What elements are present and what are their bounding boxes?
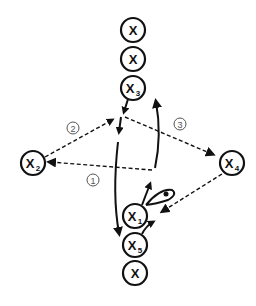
step-label-3-text: 3	[177, 120, 182, 130]
player-x-second-label: X	[129, 52, 138, 67]
cut-line-short	[119, 117, 121, 132]
player-x-second: X	[121, 47, 145, 71]
x1-up-curve-line	[155, 102, 159, 168]
ball-handler-loop	[146, 190, 174, 205]
player-x-bottom: X	[123, 261, 147, 285]
pass-3-line	[125, 117, 212, 154]
player-x5: X 5	[123, 233, 147, 257]
step-label-2: 2	[67, 122, 79, 134]
player-x2: X 2	[21, 151, 45, 175]
player-x3-label: X	[126, 81, 135, 96]
player-x2-sub: 2	[36, 164, 41, 173]
player-x-top: X	[121, 18, 145, 42]
player-x1-sub: 1	[138, 217, 143, 226]
player-x-top-label: X	[129, 23, 138, 38]
step-label-1: 1	[87, 174, 99, 186]
player-x5-label: X	[128, 238, 137, 253]
player-x2-label: X	[26, 156, 35, 171]
pass-1-line	[50, 162, 152, 170]
player-x5-sub: 5	[138, 246, 143, 255]
step-label-2-text: 2	[70, 124, 75, 134]
x3-short-move-line	[124, 99, 128, 112]
player-x1-label: X	[128, 209, 137, 224]
pass-x4-x1-line	[163, 174, 222, 211]
player-x1: X 1	[123, 204, 147, 228]
step-label-3: 3	[174, 118, 186, 130]
player-x3: X 3	[121, 76, 145, 100]
player-x-bottom-label: X	[131, 266, 140, 281]
ball-icon	[164, 192, 169, 197]
player-x3-sub: 3	[136, 89, 141, 98]
cut-down-to-x5-line	[115, 142, 119, 233]
player-x4: X 4	[220, 151, 244, 175]
play-diagram: 1 2 3 X X X 3 X 2 X 4 X 1 X 5	[0, 0, 256, 306]
player-x4-sub: 4	[235, 164, 240, 173]
step-label-1-text: 1	[90, 176, 95, 186]
player-x4-label: X	[225, 156, 234, 171]
